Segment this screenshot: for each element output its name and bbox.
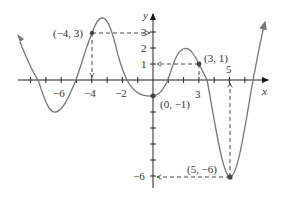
- x-axis-label: x: [261, 85, 267, 97]
- y-tick-label: 1: [141, 58, 147, 70]
- point-marker: [197, 62, 202, 67]
- point-label: (0, −1): [160, 98, 190, 111]
- x-tick-label: −2: [115, 87, 127, 99]
- point-label: (5, −6): [187, 163, 217, 176]
- x-tick-label: 3: [195, 88, 201, 100]
- point-label: (3, 1): [204, 52, 228, 65]
- point-marker: [227, 174, 232, 179]
- point-label: (−4, 3): [53, 27, 83, 40]
- x-tick-label: −4: [84, 87, 96, 99]
- x-tick-label: −6: [53, 87, 65, 99]
- y-axis-label: y: [142, 9, 148, 21]
- point-marker: [90, 31, 94, 35]
- y-tick-label: 2: [141, 42, 147, 54]
- y-tick-label: 3: [141, 26, 147, 38]
- function-graph: x y −6 −4 −2 3 5 3 2 1 −6: [0, 0, 282, 197]
- curve-start-arrow-icon: [17, 34, 24, 42]
- tick-labels: −6 −4 −2 3 5 3 2 1 −6: [53, 26, 232, 182]
- point-marker: [151, 94, 156, 99]
- x-tick-label: 5: [226, 63, 232, 75]
- y-tick-label: −6: [133, 170, 145, 182]
